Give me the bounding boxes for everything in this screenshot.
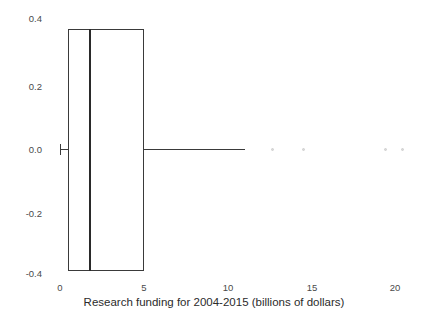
plot-area: 0.4 0.2 0.0 -0.2 -0.4 0 5 10 15 20 [0, 0, 428, 332]
x-tick-label-20: 20 [380, 283, 410, 293]
y-tick-label-3: -0.2 [8, 209, 42, 219]
x-axis-title: Research funding for 2004-2015 (billions… [0, 296, 428, 308]
x-tick-label-15: 15 [297, 283, 327, 293]
y-tick-label-4: -0.4 [8, 269, 42, 279]
outlier-point [302, 148, 305, 151]
y-tick-label-1: 0.2 [8, 82, 42, 92]
outlier-point [271, 148, 274, 151]
x-tick-label-5: 5 [129, 283, 159, 293]
y-tick-label-2: 0.0 [8, 145, 42, 155]
median-line [89, 29, 91, 271]
box-rect [68, 29, 144, 271]
x-tick-label-0: 0 [45, 283, 75, 293]
x-tick-label-10: 10 [213, 283, 243, 293]
boxplot-figure: 0.4 0.2 0.0 -0.2 -0.4 0 5 10 15 20 Resea… [0, 0, 428, 332]
outlier-point [401, 148, 404, 151]
whisker-right [144, 149, 245, 150]
outlier-point [384, 148, 387, 151]
whisker-left [60, 149, 69, 150]
y-tick-label-0: 0.4 [8, 14, 42, 24]
